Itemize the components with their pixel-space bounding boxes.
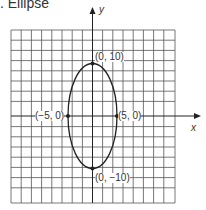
point-label-left: (−5, 0)	[35, 111, 64, 121]
x-axis-arrow-icon	[194, 113, 201, 119]
point-left	[66, 114, 70, 118]
point-bottom	[91, 167, 95, 171]
point-label-top: (0, 10)	[95, 52, 124, 62]
point-label-bottom: (0, −10)	[95, 173, 130, 183]
point-label-right: (5, 0)	[118, 111, 141, 121]
x-axis-label: x	[191, 123, 196, 133]
point-top	[91, 62, 95, 66]
y-axis-label: y	[99, 5, 104, 15]
y-axis-arrow-icon	[90, 7, 96, 14]
